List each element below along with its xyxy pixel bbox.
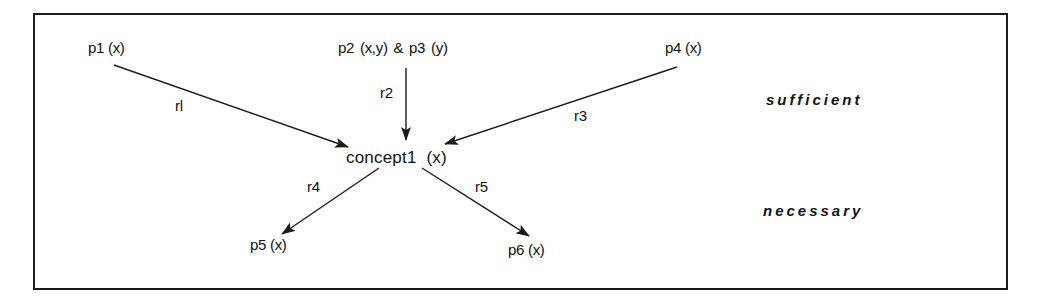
edge-label-r4: r4 <box>307 178 320 195</box>
edge-label-r2: r2 <box>380 84 393 101</box>
node-p6: p6 (x) <box>508 241 545 258</box>
edge-label-r1: rl <box>175 97 183 114</box>
arrow-r4 <box>282 168 379 234</box>
edge-label-r5: r5 <box>475 178 488 195</box>
arrow-r3 <box>445 67 677 144</box>
category-necessary: necessary <box>763 202 863 219</box>
node-p1: p1 (x) <box>88 39 125 56</box>
node-concept1: concept1 (x) <box>346 148 447 168</box>
arrow-r1 <box>114 65 348 147</box>
category-sufficient: sufficient <box>766 91 862 108</box>
node-p2-p3: p2 (x,y) & p3 (y) <box>338 39 448 56</box>
edges-layer <box>0 0 1039 305</box>
node-p4: p4 (x) <box>665 39 702 56</box>
edge-label-r3: r3 <box>574 107 587 124</box>
node-p5: p5 (x) <box>250 236 287 253</box>
